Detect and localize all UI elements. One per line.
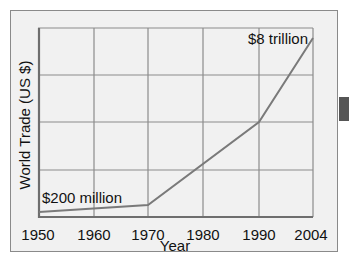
- trade-line: [39, 38, 313, 212]
- end-annotation: $8 trillion: [248, 30, 308, 47]
- x-tick-1980: 1980: [186, 226, 219, 243]
- start-annotation: $200 million: [42, 189, 122, 206]
- x-tick-1950: 1950: [21, 226, 54, 243]
- line-chart: $200 million $8 trillion 1950 1960 1970 …: [0, 0, 349, 265]
- x-tick-2004: 2004: [294, 226, 327, 243]
- y-axis-title: World Trade (US $): [16, 61, 33, 190]
- x-axis-title: Year: [160, 237, 190, 254]
- x-tick-1990: 1990: [242, 226, 275, 243]
- x-tick-1960: 1960: [77, 226, 110, 243]
